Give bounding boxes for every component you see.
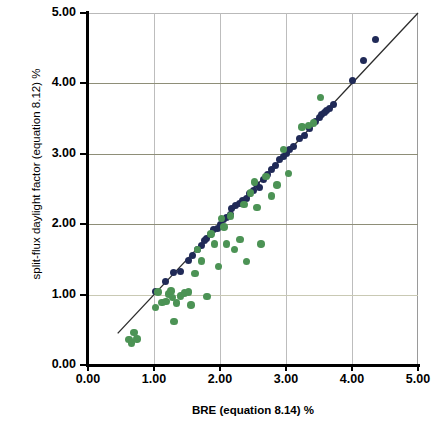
x-axis-tick [417,364,419,371]
y-tick-label-text: 3.00 [26,146,76,160]
data-point-green [240,201,248,209]
data-point-green [187,301,195,309]
scatter-chart: split-flux daylight factor (equation 8.1… [0,0,435,429]
data-point-navy [177,268,184,275]
data-point-green [207,230,215,238]
x-axis-line [86,364,420,367]
data-point-navy [330,101,337,108]
y-tick-label: 5.00 [26,5,76,19]
data-point-green [198,257,206,265]
data-point-green [154,288,162,296]
data-point-green [268,192,276,200]
data-point-green [211,240,219,248]
data-point-green [257,240,265,248]
x-axis-tick [285,364,287,371]
y-axis-tick [80,153,87,155]
y-tick-label-text: 2.00 [26,216,76,230]
data-point-green [253,204,261,212]
y-axis-tick [80,294,87,296]
y-axis-line [86,11,89,367]
y-tick-label: 1.00 [26,287,76,301]
x-axis-tick [153,364,155,371]
x-tick-label: 1.00 [126,372,182,386]
y-tick-label-text: 1.00 [26,287,76,301]
x-axis-tick [351,364,353,371]
y-tick-label: 4.00 [26,75,76,89]
data-point-navy [349,77,356,84]
data-point-green [247,189,255,197]
data-point-green [262,173,270,181]
data-point-green [227,212,235,220]
data-point-navy [301,132,308,139]
y-axis-tick [80,223,87,225]
data-point-green [185,288,193,296]
data-point-green [310,119,318,127]
y-tick-label: 2.00 [26,216,76,230]
y-tick-label-text: 4.00 [26,75,76,89]
data-point-green [133,335,141,343]
data-point-green [203,293,211,301]
y-axis-tick [80,82,87,84]
plot-area [88,13,418,365]
x-tick-label: 5.00 [390,372,435,386]
x-axis-title: BRE (equation 8.14) % [88,404,418,416]
data-point-green [173,299,181,307]
x-tick-label: 4.00 [324,372,380,386]
data-point-green [236,236,244,244]
x-axis-tick [219,364,221,371]
data-point-green [273,181,281,189]
y-tick-label: 3.00 [26,146,76,160]
data-point-navy [189,252,196,259]
x-tick-label: 2.00 [192,372,248,386]
data-point-green [251,178,259,186]
x-tick-label: 3.00 [258,372,314,386]
data-point-green [170,318,178,326]
y-tick-label-text: 5.00 [26,5,76,19]
x-tick-label: 0.00 [60,372,116,386]
data-point-green [223,240,231,248]
y-axis-tick [80,364,87,366]
y-tick-label: 0.00 [26,357,76,371]
data-point-green [191,270,199,278]
y-tick-label-text: 0.00 [26,357,76,371]
y-axis-tick [80,12,87,14]
x-axis-tick [87,364,89,371]
data-point-green [220,223,228,231]
